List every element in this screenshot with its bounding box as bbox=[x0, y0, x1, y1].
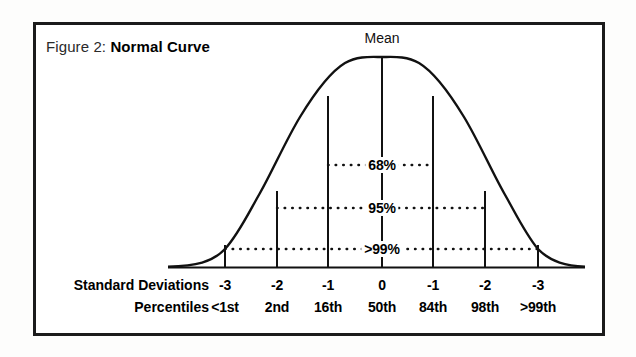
percentiles-row: Percentiles <1st2nd16th50th84th98th>99th bbox=[33, 297, 605, 319]
percentile-value-2: 16th bbox=[314, 297, 342, 317]
sd-value-6: -3 bbox=[532, 275, 544, 295]
standard-deviations-heading: Standard Deviations bbox=[74, 275, 209, 295]
sd-value-3: 0 bbox=[378, 275, 386, 295]
caption-prefix: Figure 2: bbox=[46, 38, 106, 55]
percentiles-heading: Percentiles bbox=[134, 297, 209, 317]
sd-value-4: -1 bbox=[427, 275, 439, 295]
sd-value-5: -2 bbox=[479, 275, 491, 295]
figure-caption: Figure 2: Normal Curve bbox=[46, 38, 210, 56]
percentile-value-4: 84th bbox=[419, 297, 447, 317]
caption-title: Normal Curve bbox=[110, 38, 210, 55]
mean-label: Mean bbox=[364, 30, 399, 46]
percentile-value-0: <1st bbox=[211, 297, 239, 317]
sd-value-2: -1 bbox=[322, 275, 334, 295]
percentile-value-1: 2nd bbox=[265, 297, 289, 317]
sd-value-0: -3 bbox=[219, 275, 231, 295]
band-label-99: >99% bbox=[361, 241, 402, 257]
sd-value-1: -2 bbox=[271, 275, 283, 295]
figure-root: Figure 2: Normal Curve bbox=[0, 0, 636, 357]
axis-label-rows: Standard Deviations -3-2-10-1-2-3 Percen… bbox=[33, 274, 605, 330]
band-label-95: 95% bbox=[365, 200, 398, 216]
percentile-value-5: 98th bbox=[471, 297, 499, 317]
band-label-68: 68% bbox=[365, 157, 398, 173]
percentile-value-3: 50th bbox=[368, 297, 396, 317]
percentile-value-6: >99th bbox=[520, 297, 556, 317]
standard-deviations-row: Standard Deviations -3-2-10-1-2-3 bbox=[33, 275, 605, 297]
